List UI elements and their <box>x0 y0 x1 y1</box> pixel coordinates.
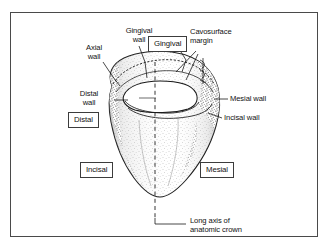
label-distal-wall: Distal wall <box>66 89 112 107</box>
tooth-crown-outline <box>100 45 230 205</box>
label-long-axis: Long axis of anatomic crown <box>190 216 280 234</box>
boxed-label-gingival: Gingival <box>148 36 187 52</box>
label-axial-wall: Axial wall <box>72 43 116 61</box>
label-incisal-wall: Incisal wall <box>224 113 296 122</box>
label-mesial-wall: Mesial wall <box>230 94 302 103</box>
boxed-label-mesial: Mesial <box>200 162 234 178</box>
label-cavosurface-margin: Cavosurface margin <box>190 27 266 45</box>
figure-root: Gingival wall Axial wall Cavosurface mar… <box>0 0 324 252</box>
boxed-label-incisal: Incisal <box>80 162 113 178</box>
boxed-label-distal: Distal <box>68 112 99 128</box>
